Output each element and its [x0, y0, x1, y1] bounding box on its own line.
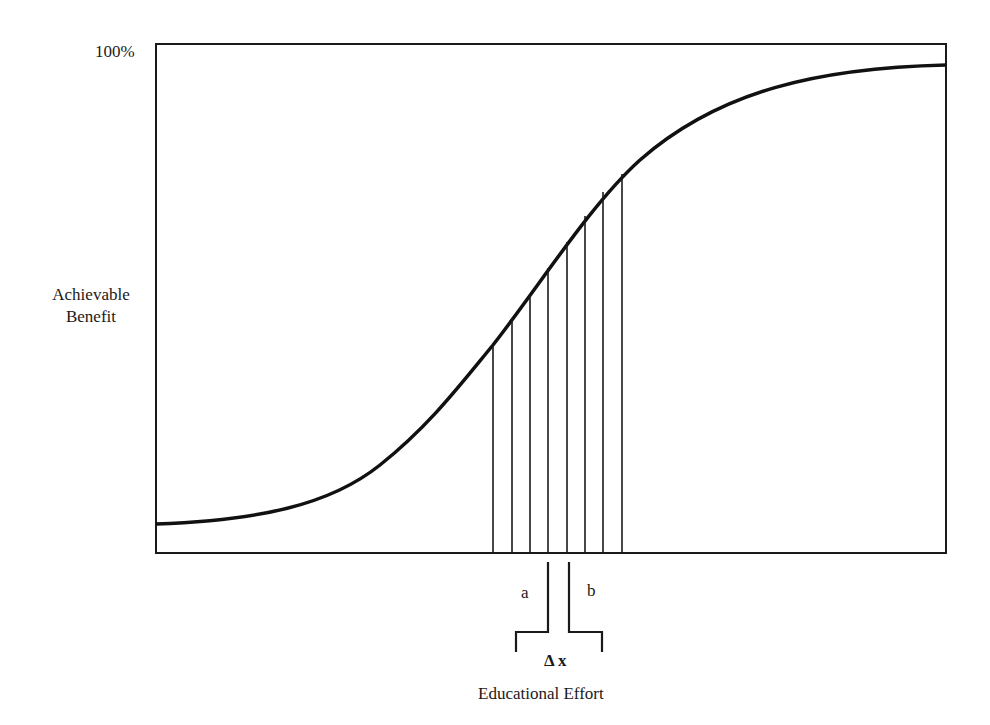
effort-interval-lines [493, 174, 622, 553]
label-a: a [521, 582, 529, 604]
plot-frame [156, 44, 946, 553]
y-axis-top-tick: 100% [95, 41, 135, 63]
y-axis-label: Achievable Benefit [36, 284, 146, 328]
delta-x-bracket [516, 562, 602, 652]
delta-x-label: Δ x [544, 650, 566, 672]
x-axis-label: Educational Effort [478, 683, 604, 705]
benefit-curve [156, 65, 946, 524]
diagram-canvas [0, 0, 990, 725]
y-axis-label-line2: Benefit [36, 306, 146, 328]
y-axis-label-line1: Achievable [36, 284, 146, 306]
label-b: b [587, 580, 596, 602]
